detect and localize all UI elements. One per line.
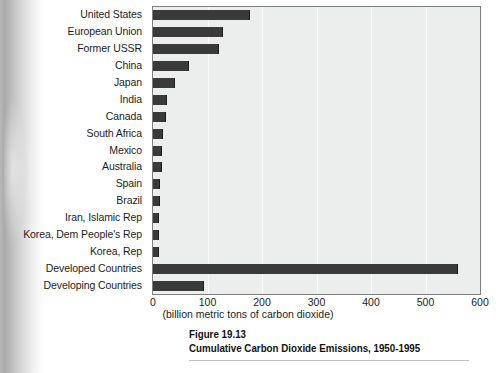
bar [153,78,175,88]
x-tick-label: 100 [199,296,217,308]
category-label: Japan [0,74,147,91]
x-tick-label: 500 [417,296,435,308]
bar [153,230,159,240]
x-tick-label: 600 [471,296,489,308]
bar [153,264,458,274]
category-label: Spain [0,175,147,192]
bar-series [153,7,480,294]
category-label: Australia [0,158,147,175]
category-label: Korea, Dem People's Rep [0,226,147,243]
bar [153,61,189,71]
bar-row [153,227,480,244]
figure-19-13: United StatesEuropean UnionFormer USSRCh… [0,0,496,373]
bar [153,95,167,105]
category-label: Former USSR [0,40,147,57]
bar-row [153,244,480,261]
bar [153,162,162,172]
category-label: China [0,57,147,74]
bar-row [153,210,480,227]
category-label: Developed Countries [0,260,147,277]
x-tick-label: 0 [150,296,156,308]
bar-row [153,193,480,210]
bar-row [153,143,480,160]
bar-row [153,58,480,75]
category-label: Brazil [0,192,147,209]
bar [153,196,160,206]
plot-area [152,6,481,295]
bar [153,27,223,37]
bar [153,146,162,156]
x-tick-label: 200 [253,296,271,308]
figure-number: Figure 19.13 [189,328,468,342]
bar [153,10,250,20]
category-label: Iran, Islamic Rep [0,209,147,226]
bar [153,213,159,223]
category-label: United States [0,6,147,23]
bar [153,129,163,139]
x-tick-label: 300 [308,296,326,308]
category-axis-labels: United StatesEuropean UnionFormer USSRCh… [0,6,147,295]
category-label: South Africa [0,125,147,142]
category-label: European Union [0,23,147,40]
category-label: Mexico [0,142,147,159]
bar-row [153,75,480,92]
bar [153,281,204,291]
bar [153,179,160,189]
bar-row [153,278,480,295]
figure-caption: Figure 19.13 Cumulative Carbon Dioxide E… [189,328,489,355]
bar [153,44,219,54]
bar-row [153,109,480,126]
bar-row [153,261,480,278]
category-label: Canada [0,108,147,125]
x-tick-label: 400 [362,296,380,308]
caption-divider [189,360,469,361]
bar-row [153,24,480,41]
bar-row [153,7,480,24]
category-label: Korea, Rep [0,243,147,260]
bar-row [153,159,480,176]
figure-title: Cumulative Carbon Dioxide Emissions, 195… [189,342,468,356]
bar-row [153,126,480,143]
bar [153,112,166,122]
bar-row [153,176,480,193]
value-axis-title: (billion metric tons of carbon dioxide) [0,308,496,320]
category-label: Developing Countries [0,277,147,294]
category-label: India [0,91,147,108]
bar-row [153,41,480,58]
bar [153,247,159,257]
bar-row [153,92,480,109]
